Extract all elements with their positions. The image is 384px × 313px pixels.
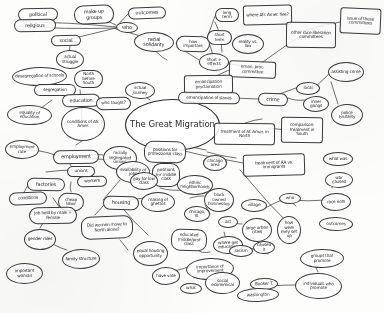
mindmap-node-positions-prof[interactable]: positions for professional class xyxy=(144,141,186,163)
mindmap-node-label: positions for professional class xyxy=(147,147,183,156)
mindmap-node-make-up-groups[interactable]: make up groups xyxy=(74,4,115,25)
mindmap-node-racism[interactable]: racism xyxy=(229,245,253,257)
mindmap-node-label: segregation xyxy=(43,88,66,93)
mindmap-node-factories[interactable]: factories xyxy=(27,178,65,192)
mindmap-node-label: who xyxy=(122,25,132,30)
mindmap-node-label: eman. proc. committee xyxy=(232,64,273,74)
mindmap-node-workers[interactable]: workers xyxy=(77,176,107,188)
mindmap-node-short-term[interactable]: short term xyxy=(207,30,232,46)
mindmap-node-label: Did women move to North alone? xyxy=(84,222,130,233)
mindmap-node-label: racism xyxy=(234,249,247,253)
mindmap-node-label: individuals who promote xyxy=(298,281,339,291)
mindmap-node-religious[interactable]: religious xyxy=(14,18,56,32)
mindmap-node-long-term[interactable]: long term xyxy=(215,8,239,22)
mindmap-node-label: how important xyxy=(179,39,207,48)
mindmap-node-have-vote[interactable]: have vote xyxy=(152,267,180,285)
mindmap-node-treatment-immig[interactable]: treatment of AA vs. immigrants xyxy=(243,153,306,177)
mindmap-node-where-flee[interactable]: where Afr. Amer. flee? xyxy=(243,5,292,26)
mindmap-node-label: conditions of Afr. Amer. xyxy=(64,120,102,129)
mindmap-node-label: other race liberation committees xyxy=(289,30,333,39)
mindmap-node-label: North before South xyxy=(77,72,100,86)
mindmap-node-label: job held by male + female xyxy=(32,211,74,220)
mindmap-edge xyxy=(70,182,71,192)
mindmap-node-crime[interactable]: crime xyxy=(258,92,289,106)
mindmap-edge xyxy=(120,240,128,250)
mindmap-node-label: ethnic neighborhoods xyxy=(180,180,210,189)
mindmap-node-label: factories xyxy=(36,182,56,187)
mindmap-node-education[interactable]: education xyxy=(62,94,100,108)
mindmap-node-chicago-area[interactable]: chicago area xyxy=(203,155,227,171)
mindmap-node-label: housing xyxy=(112,200,130,205)
mindmap-node-emancipation-slaves[interactable]: emancipation of slaves xyxy=(178,92,240,105)
mindmap-node-label: chicago, Ill. xyxy=(187,209,207,218)
mindmap-node-label: comparison: treatment in South xyxy=(284,123,320,137)
mindmap-node-actual-struggle[interactable]: actual struggle xyxy=(56,50,84,69)
mindmap-node-who[interactable]: who xyxy=(279,193,301,204)
mindmap-node-label: actual struggle xyxy=(59,55,81,64)
mindmap-node-who-taught[interactable]: who taught? xyxy=(96,97,131,110)
mindmap-node-other-race-comm[interactable]: other race liberation committees xyxy=(286,22,336,49)
mindmap-node-label: equality of education xyxy=(10,110,49,120)
mindmap-node-label: race riots xyxy=(327,199,345,204)
mindmap-node-short-effects[interactable]: short + effects xyxy=(199,53,229,72)
mindmap-node-label: educated middle/prof class xyxy=(174,233,204,247)
mindmap-node-employment-rate[interactable]: employment rate xyxy=(5,140,39,160)
mindmap-node-what-was[interactable]: what was xyxy=(323,152,353,166)
mindmap-node-label: issue of these committees xyxy=(343,16,378,26)
mindmap-node-label: education xyxy=(69,98,92,103)
mindmap-node-job-held[interactable]: job held by male + female xyxy=(29,207,77,225)
mindmap-node-educated-middle[interactable]: educated middle/prof class xyxy=(171,228,208,251)
mindmap-node-label: making of ghettos xyxy=(144,198,172,207)
mindmap-node-label: what was xyxy=(329,157,348,161)
mindmap-node-label: workers xyxy=(84,179,100,184)
mindmap-node-label: large urban cities xyxy=(245,225,269,235)
mindmap-node-label: black owned businesses xyxy=(207,193,231,207)
mindmap-node-conditions-afr[interactable]: conditions of Afr. Amer. xyxy=(61,107,105,141)
mindmap-node-individuals-promote[interactable]: individuals who promote xyxy=(295,273,342,300)
mindmap-node-label: long term xyxy=(218,11,236,20)
mindmap-node-label: outcomes xyxy=(326,222,346,227)
mindmap-node-eman-proc-comm[interactable]: eman. proc. committee xyxy=(229,60,277,79)
mindmap-node-act[interactable]: act xyxy=(218,216,238,228)
mindmap-node-housing[interactable]: housing xyxy=(103,196,139,211)
mindmap-node-did-women-move[interactable]: Did women move to North alone? xyxy=(81,215,134,240)
mindmap-node-treatment-north[interactable]: treatment of Af. Amer. in North xyxy=(214,123,275,146)
mindmap-node-label: religious xyxy=(25,23,45,29)
mindmap-node-label: gender roles xyxy=(28,237,53,241)
mindmap-node-label: conditions xyxy=(18,196,38,201)
mindmap-node-label: important woman xyxy=(9,269,40,278)
mindmap-node-label: how were they set up xyxy=(280,221,298,239)
mindmap-node-label: inner gangs xyxy=(306,100,326,109)
mindmap-node-social-economical[interactable]: social economical xyxy=(205,272,240,294)
mindmap-node-gender-roles[interactable]: gender roles xyxy=(24,229,56,250)
mindmap-node-chicago-lll[interactable]: chicago, Ill. xyxy=(184,206,210,222)
mindmap-node-label: who taught? xyxy=(101,101,126,106)
mindmap-node-label: racial solidarity xyxy=(137,36,171,47)
mindmap-node-how-important[interactable]: how important xyxy=(176,36,210,53)
mindmap-node-conditions[interactable]: conditions xyxy=(9,191,48,206)
mindmap-node-what[interactable]: what xyxy=(180,283,202,294)
mindmap-node-outcomes[interactable]: outcomes xyxy=(128,6,166,19)
mindmap-node-label: have vote xyxy=(156,274,176,279)
mindmap-node-label: political xyxy=(29,12,47,17)
mindmap-node-social[interactable]: social xyxy=(51,35,81,46)
mindmap-node-label: short + effects xyxy=(202,57,226,66)
mindmap-node-label: what xyxy=(186,286,196,291)
mindmap-edge xyxy=(76,141,82,145)
mindmap-node-making-ghettos[interactable]: making of ghettos xyxy=(141,192,175,212)
mindmap-node-label: make up groups xyxy=(77,9,111,20)
mindmap-node-label: actual journey xyxy=(128,86,152,96)
mindmap-node-comparison-south[interactable]: comparison: treatment in South xyxy=(281,117,323,144)
mindmap-node-reality-vs-law[interactable]: reality vs. law xyxy=(232,34,264,54)
mindmap-node-label: assisting crime xyxy=(331,70,360,74)
mindmap-node-label: emancipation proclamation xyxy=(187,80,230,89)
mindmap-node-issue-comm[interactable]: issue of these committees xyxy=(339,7,381,35)
mindmap-node-label: chicago area xyxy=(206,159,224,168)
mindmap-node-label: cheap labor xyxy=(61,197,81,206)
mindmap-node-assisting-crime[interactable]: assisting crime xyxy=(328,62,364,82)
mindmap-node-label: employment xyxy=(61,154,91,160)
mindmap-node-north-before-south[interactable]: North before South xyxy=(74,70,103,89)
mindmap-node-employment[interactable]: employment xyxy=(53,149,99,164)
mindmap-node-label: social economical xyxy=(208,279,237,288)
mindmap-node-villages[interactable]: village xyxy=(241,199,267,212)
